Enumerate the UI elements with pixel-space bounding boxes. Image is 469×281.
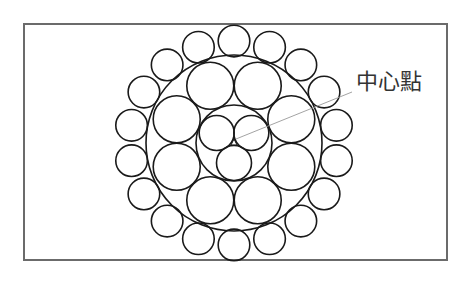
outer-strand bbox=[128, 76, 160, 108]
outer-strand bbox=[183, 223, 215, 255]
outer-strand bbox=[218, 25, 250, 57]
outer-strand bbox=[116, 145, 148, 177]
outer-strand bbox=[151, 49, 183, 81]
middle-strand bbox=[153, 143, 200, 190]
outer-strand bbox=[321, 110, 353, 142]
outer-strand bbox=[218, 229, 250, 261]
outer-strand bbox=[128, 178, 160, 210]
outer-strand bbox=[308, 178, 340, 210]
outer-strand bbox=[116, 110, 148, 142]
outer-strand bbox=[183, 31, 215, 63]
outer-strand bbox=[151, 205, 183, 237]
outer-strand bbox=[321, 145, 353, 177]
outer-strand bbox=[285, 49, 317, 81]
strand-cross-section bbox=[0, 0, 469, 281]
core-strand bbox=[217, 146, 252, 181]
core-strand bbox=[199, 116, 234, 151]
outer-strand bbox=[285, 205, 317, 237]
middle-strand bbox=[268, 96, 315, 143]
center-point-label: 中心點 bbox=[356, 71, 422, 93]
diagram-canvas: 中心點 bbox=[0, 0, 469, 281]
outer-strand bbox=[254, 31, 286, 63]
core-boundary-circle bbox=[196, 105, 272, 181]
middle-strand bbox=[234, 177, 281, 224]
outer-strand bbox=[254, 223, 286, 255]
middle-strand bbox=[187, 62, 234, 109]
